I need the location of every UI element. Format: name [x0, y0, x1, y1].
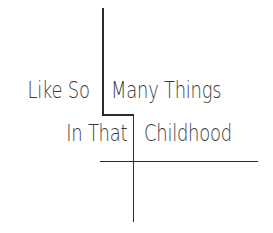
text-in-that: In That [66, 122, 127, 145]
lower-vertical-rule [133, 114, 135, 222]
text-like-so: Like So [28, 79, 90, 102]
text-childhood: Childhood [144, 122, 232, 145]
step-horizontal-rule [102, 114, 134, 116]
upper-vertical-rule [102, 8, 104, 115]
bottom-horizontal-rule [100, 161, 258, 163]
text-many-things: Many Things [111, 79, 221, 102]
